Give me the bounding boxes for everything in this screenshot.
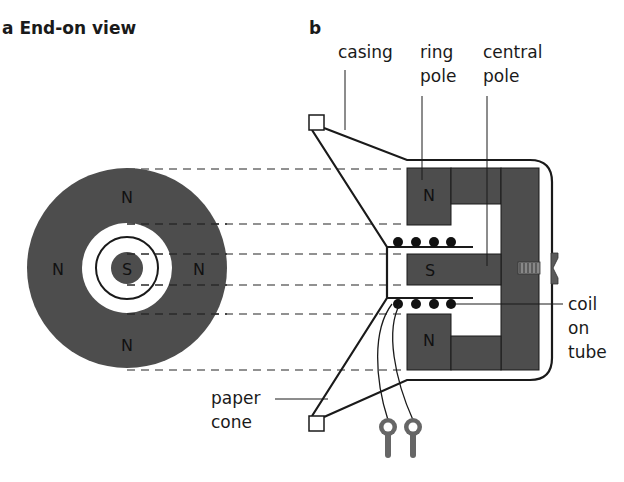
pole-label-bottom: N [121, 336, 133, 355]
end-on-view: N N N N S [27, 168, 227, 368]
lead-wire-1 [378, 304, 392, 420]
label-central-pole-2: pole [483, 66, 519, 86]
label-coil-1: coil [568, 294, 597, 314]
label-casing: casing [338, 42, 393, 62]
title-b: b [309, 18, 321, 38]
cone-rim-top [309, 115, 324, 130]
yoke-bottom [451, 336, 501, 370]
pole-label-top: N [121, 188, 133, 207]
cross-section: N S N [275, 70, 563, 458]
terminal-1 [379, 418, 397, 458]
ring-pole-top-label: N [423, 186, 435, 205]
coil-winding [393, 237, 403, 247]
coil-winding [446, 299, 456, 309]
coil-winding [411, 237, 421, 247]
label-coil-2: on [568, 318, 589, 338]
paper-cone [312, 130, 387, 416]
cone-rim-bottom [309, 416, 324, 431]
pole-label-right: N [193, 260, 205, 279]
label-ring-pole-1: ring [420, 42, 453, 62]
label-paper-cone-2: cone [211, 412, 252, 432]
terminal-2 [404, 418, 422, 458]
central-pole-label: S [425, 261, 435, 280]
label-paper-cone-1: paper [211, 388, 260, 408]
yoke-top [451, 168, 501, 204]
pole-label-left: N [52, 260, 64, 279]
title-end-on-view: a End-on view [2, 18, 136, 38]
pole-label-center: S [122, 260, 132, 279]
label-coil-3: tube [568, 342, 607, 362]
coil-winding [429, 237, 439, 247]
label-ring-pole-2: pole [420, 66, 456, 86]
loudspeaker-diagram: a End-on view b N N N N S [0, 0, 624, 482]
coil-winding [446, 237, 456, 247]
label-central-pole-1: central [483, 42, 542, 62]
coil-winding [429, 299, 439, 309]
ring-pole-bottom-label: N [423, 331, 435, 350]
coil-winding [411, 299, 421, 309]
